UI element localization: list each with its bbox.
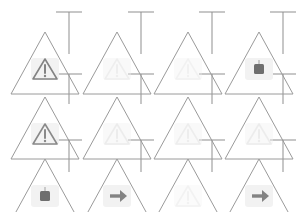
icon-exclamation-dot [187, 140, 189, 142]
stop-square-icon [30, 181, 60, 211]
cell-r1-c2[interactable] [80, 28, 154, 99]
warning-triangle-icon [173, 181, 203, 211]
sign-cells-layer [0, 0, 296, 212]
warning-triangle-icon [102, 119, 132, 149]
sign-inner-icon [173, 181, 203, 211]
sign-inner-icon [244, 181, 274, 211]
cell-r1-c3[interactable] [151, 28, 225, 99]
icon-exclamation-dot [258, 140, 260, 142]
arrow-right-icon [102, 181, 132, 211]
cell-r1-c1[interactable] [8, 28, 82, 99]
icon-grid-canvas [0, 0, 296, 212]
sign-inner-icon [173, 54, 203, 84]
icon-exclamation-dot [187, 75, 189, 77]
cell-r2-c1[interactable] [8, 93, 82, 164]
cell-r3-c3[interactable] [151, 155, 225, 212]
icon-square-glyph [254, 64, 264, 74]
sign-inner-icon [30, 54, 60, 84]
sign-inner-icon [102, 119, 132, 149]
icon-exclamation-dot [116, 140, 118, 142]
cell-r2-c3[interactable] [151, 93, 225, 164]
sign-inner-icon [102, 181, 132, 211]
cell-r1-c4[interactable] [222, 28, 296, 99]
cell-r2-c2[interactable] [80, 93, 154, 164]
warning-triangle-icon [30, 54, 60, 84]
warning-triangle-icon [173, 54, 203, 84]
stop-square-icon [244, 54, 274, 84]
icon-exclamation-dot [44, 75, 46, 77]
warning-triangle-icon [173, 119, 203, 149]
cell-r3-c4[interactable] [222, 155, 296, 212]
sign-inner-icon [244, 119, 274, 149]
icon-exclamation-dot [116, 75, 118, 77]
cell-r2-c4[interactable] [222, 93, 296, 164]
sign-inner-icon [244, 54, 274, 84]
sign-inner-icon [30, 181, 60, 211]
icon-square-glyph [40, 191, 50, 201]
sign-inner-icon [30, 119, 60, 149]
icon-exclamation-dot [44, 140, 46, 142]
sign-inner-icon [173, 119, 203, 149]
arrow-right-icon [244, 181, 274, 211]
cell-r3-c1[interactable] [8, 155, 82, 212]
warning-triangle-icon [30, 119, 60, 149]
warning-triangle-icon [244, 119, 274, 149]
warning-triangle-icon [102, 54, 132, 84]
icon-exclamation-dot [187, 202, 189, 204]
cell-r3-c2[interactable] [80, 155, 154, 212]
sign-inner-icon [102, 54, 132, 84]
